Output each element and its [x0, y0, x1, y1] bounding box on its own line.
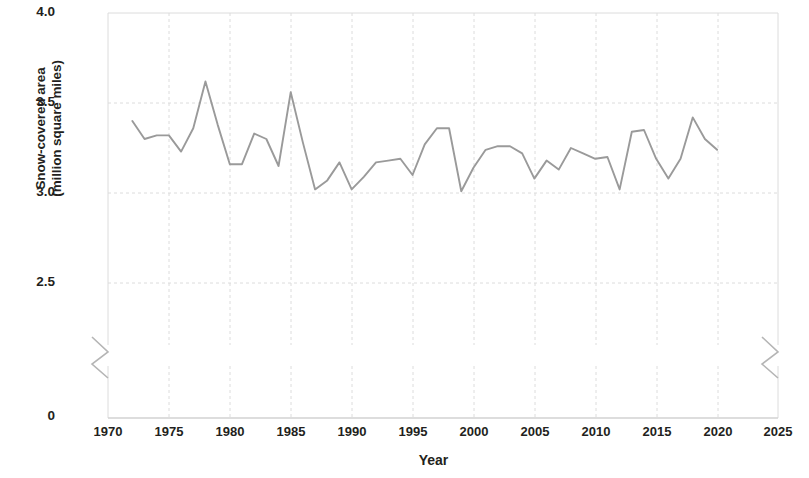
chart-figure: Snow-covered area (million square miles)…	[0, 0, 809, 478]
grid-lines	[108, 13, 778, 283]
grid-lines-vertical	[108, 13, 778, 418]
axis-break-marks	[92, 337, 778, 378]
data-series-line	[132, 81, 717, 191]
x-axis-label-text: Year	[419, 452, 449, 468]
x-axis-label: Year	[0, 452, 809, 468]
plot-svg	[0, 0, 809, 478]
